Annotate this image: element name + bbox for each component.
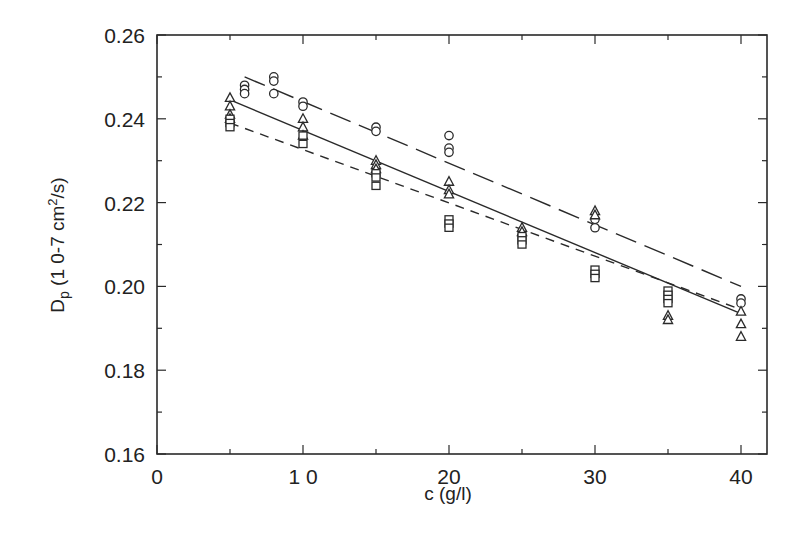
square-marker — [299, 140, 307, 147]
triangle-marker — [736, 307, 745, 316]
y-label-main: D — [47, 299, 68, 313]
plot-border — [157, 35, 767, 454]
circle-marker — [591, 224, 599, 232]
y-tick-label: 0.18 — [104, 359, 145, 382]
y-tick-label: 0.22 — [104, 192, 145, 215]
y-label-unit-pre: (1 0-7 cm — [47, 206, 68, 292]
y-axis-label: Dp (1 0-7 cm2/s) — [45, 177, 72, 312]
square-marker — [518, 241, 526, 248]
square-marker — [299, 132, 307, 139]
square-marker — [372, 174, 380, 181]
square-marker — [591, 274, 599, 281]
axis-ticks — [157, 35, 767, 454]
square-marker — [372, 182, 380, 189]
square-marker — [445, 224, 453, 231]
circle-marker — [445, 131, 453, 139]
x-axis-label: c (g/l) — [424, 483, 472, 504]
y-tick-labels: 0.160.180.200.220.240.26 — [104, 24, 145, 466]
triangle-marker — [736, 332, 745, 341]
y-tick-label: 0.16 — [104, 443, 145, 466]
circle-marker — [270, 89, 278, 97]
scatter-chart: 01 0203040 0.160.180.200.220.240.26 c (g… — [0, 0, 809, 542]
circle-marker — [299, 102, 307, 110]
y-label-sub: p — [56, 291, 72, 299]
x-tick-label: 0 — [151, 465, 163, 488]
circle-marker — [445, 148, 453, 156]
triangle-marker — [736, 319, 745, 328]
y-label-unit-post: /s) — [47, 177, 68, 198]
y-tick-label: 0.20 — [104, 275, 145, 298]
x-tick-label: 40 — [729, 465, 752, 488]
x-tick-label: 30 — [583, 465, 606, 488]
y-tick-label: 0.26 — [104, 24, 145, 47]
square-marker — [226, 124, 234, 131]
x-tick-label: 1 0 — [288, 465, 317, 488]
circle-marker — [270, 77, 278, 85]
square-marker — [664, 300, 672, 307]
y-tick-label: 0.24 — [104, 108, 145, 131]
circle-marker — [240, 89, 248, 97]
fit-lines — [230, 77, 741, 314]
fit-line-circles — [245, 77, 741, 287]
plot-frame — [157, 35, 767, 454]
y-label-sup: 2 — [45, 198, 60, 205]
circle-marker — [372, 127, 380, 135]
